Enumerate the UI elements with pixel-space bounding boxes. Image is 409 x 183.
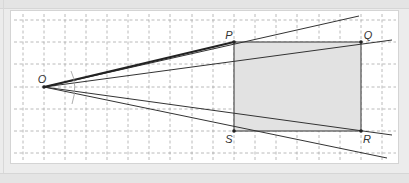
label-r: R [363,133,371,145]
label-s: S [225,133,233,145]
shaded-rectangle-pqrs [234,42,361,131]
point-o [42,85,46,89]
geometry-diagram: O P Q R S [0,0,409,183]
point-p [232,40,236,44]
segment-op-bold [44,42,234,87]
label-o: O [38,73,47,85]
label-q: Q [364,29,373,41]
point-q [359,40,363,44]
angle-arc [71,71,75,104]
label-p: P [225,29,233,41]
point-s [232,129,236,133]
